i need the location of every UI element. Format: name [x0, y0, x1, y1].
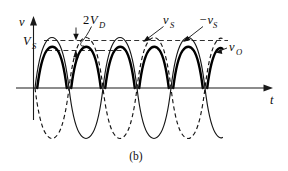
y-axis-label: v [19, 15, 25, 29]
vo-wave-label-main: v [229, 40, 235, 54]
axes-group [16, 16, 273, 120]
figure-caption: (b) [129, 150, 143, 163]
two-vd-label-sub: D [98, 20, 106, 30]
neg-vs-wave-label-sub: S [213, 20, 218, 30]
two-vd-down-arrowhead [73, 34, 79, 41]
figure-container: v t V S 2 V D v S −v S [0, 0, 288, 171]
vs-pointer-leader [147, 27, 164, 40]
waveform-plot: v t V S 2 V D v S −v S [0, 0, 288, 171]
x-axis-label: t [270, 93, 274, 107]
vo-wave-label: v O [229, 40, 242, 57]
neg-vs-wave-label-main: −v [199, 13, 213, 27]
vs-wave-label: v S [163, 13, 175, 30]
vo-wave-label-sub: O [236, 47, 242, 57]
curve-vo [207, 48, 222, 88]
vs-level-label-main: V [23, 34, 32, 48]
two-vd-label-num: 2 [83, 13, 89, 27]
vs-wave-label-main: v [163, 13, 169, 27]
vs-level-label-sub: S [32, 41, 37, 51]
two-vd-hook-leader [81, 27, 92, 47]
x-axis-arrowhead [264, 85, 274, 92]
annotation-leaders-group [73, 27, 227, 63]
neg-vs-pointer-leader [187, 27, 203, 40]
y-axis-arrowhead [30, 16, 37, 26]
vs-level-label: V S [23, 34, 37, 51]
two-vd-label: 2 V D [83, 13, 106, 30]
vs-wave-label-sub: S [170, 20, 175, 30]
level-lines-group [44, 41, 228, 51]
two-vd-label-main: V [90, 13, 99, 27]
